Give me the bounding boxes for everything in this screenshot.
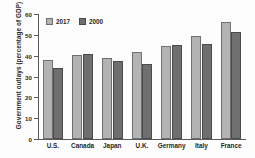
y-tick-mark [34,139,38,140]
bar-2000-US[interactable] [53,68,63,139]
bar-2017-Canada[interactable] [72,55,82,139]
plot-area: 0102030405060 U.S.CanadaJapanU.K.Germany… [38,14,246,139]
bar-group: Japan [102,14,123,139]
y-tick-label: 40 [25,52,32,59]
bar-group: Italy [191,14,212,139]
bar-2017-Germany[interactable] [161,46,171,139]
x-tick-label: U.S. [47,142,59,149]
y-tick-label: 50 [25,31,32,38]
x-tick-label: Japan [103,142,121,149]
x-tick-label: Germany [158,142,186,149]
x-tick-label: Italy [195,142,208,149]
y-tick-mark [34,77,38,78]
bar-group: France [221,14,242,139]
bar-2000-Germany[interactable] [172,45,182,139]
bar-2000-France[interactable] [231,32,241,139]
y-tick-label: 60 [25,11,32,18]
bar-2000-Japan[interactable] [113,61,123,139]
bar-2017-France[interactable] [221,22,231,139]
x-tick-label: Canada [71,142,94,149]
y-tick-label: 10 [25,115,32,122]
bar-group: Canada [72,14,93,139]
bar-2000-UK[interactable] [142,64,152,139]
bar-group: Germany [161,14,182,139]
bar-2000-Italy[interactable] [202,44,212,139]
x-tick-label: France [221,142,242,149]
bar-2017-Japan[interactable] [102,58,112,139]
bar-2000-Canada[interactable] [83,54,93,139]
y-tick-mark [34,97,38,98]
y-tick-mark [34,118,38,119]
bar-group: U.S. [43,14,64,139]
y-tick-label: 30 [25,73,32,80]
y-tick-mark [34,35,38,36]
y-axis-line [38,14,39,139]
bar-2017-UK[interactable] [132,52,142,140]
bar-group: U.K. [132,14,153,139]
x-tick-label: U.K. [136,142,149,149]
x-axis-line [38,139,246,140]
bar-chart: Government outlays (percentage of GDP) 2… [0,0,255,158]
y-tick-label: 0 [29,136,32,143]
y-tick-label: 20 [25,94,32,101]
y-tick-mark [34,56,38,57]
y-axis-title: Government outlays (percentage of GDP) [15,1,22,131]
bar-2017-Italy[interactable] [191,36,201,139]
bar-2017-US[interactable] [43,60,53,139]
y-tick-mark [34,14,38,15]
